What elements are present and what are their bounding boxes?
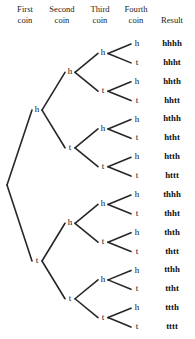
branch-l3-4-l4-9 (108, 204, 131, 213)
branch-l2-2-l3-5 (75, 223, 98, 242)
branch-l2-3-l3-6 (75, 280, 98, 299)
branch-l3-4-l4-8 (108, 195, 131, 204)
node-fourth-coin-12: h (135, 265, 140, 275)
branch-l2-2-l3-4 (75, 204, 98, 223)
branch-l3-1-l4-3 (108, 91, 131, 100)
result-outcome-9: thht (164, 208, 180, 218)
result-outcome-15: tttt (166, 321, 178, 331)
node-fourth-coin-6: h (135, 151, 140, 161)
result-outcome-5: htht (164, 132, 180, 142)
node-fourth-coin-7: t (136, 170, 139, 180)
result-outcome-7: httt (165, 170, 179, 180)
result-outcome-2: hhth (163, 76, 181, 86)
result-outcome-12: tthh (164, 264, 180, 274)
branch-l3-3-l4-6 (108, 157, 131, 166)
result-outcome-11: thtt (165, 246, 179, 256)
node-second-coin-2: h (68, 217, 73, 227)
node-third-coin-7: t (102, 312, 105, 322)
result-outcome-13: ttht (165, 283, 179, 293)
node-fourth-coin-0: h (135, 38, 140, 48)
node-fourth-coin-2: h (135, 76, 140, 86)
node-fourth-coin-4: h (135, 114, 140, 124)
branch-l2-0-l3-0 (75, 53, 98, 72)
node-third-coin-0: h (101, 47, 106, 57)
node-fourth-coin-10: h (135, 227, 140, 237)
branch-l3-7-l4-14 (108, 308, 131, 317)
node-third-coin-4: h (101, 198, 106, 208)
node-fourth-coin-15: t (136, 321, 139, 331)
branch-l3-2-l4-4 (108, 119, 131, 128)
branch-l1-1-l2-3 (42, 261, 65, 299)
branch-l2-1-l3-3 (75, 148, 98, 167)
node-fourth-coin-3: t (136, 95, 139, 105)
branch-l3-1-l4-2 (108, 82, 131, 91)
branch-l3-7-l4-15 (108, 318, 131, 327)
tree-branches (7, 44, 131, 327)
branch-l2-0-l3-1 (75, 72, 98, 91)
result-outcome-4: hthh (163, 113, 181, 123)
node-second-coin-3: t (69, 293, 72, 303)
branch-l3-6-l4-12 (108, 270, 131, 279)
node-fourth-coin-13: t (136, 283, 139, 293)
node-third-coin-1: t (102, 85, 105, 95)
node-third-coin-6: h (101, 274, 106, 284)
node-second-coin-1: t (69, 142, 72, 152)
node-third-coin-3: t (102, 161, 105, 171)
node-third-coin-5: t (102, 236, 105, 246)
tree-node-labels: hthththththththththththththththhhhhhhthh… (35, 38, 182, 331)
result-outcome-1: hhht (163, 57, 181, 67)
branch-l3-3-l4-7 (108, 167, 131, 176)
node-fourth-coin-1: t (136, 57, 139, 67)
node-fourth-coin-8: h (135, 189, 140, 199)
node-second-coin-0: h (68, 66, 73, 76)
result-outcome-0: hhhh (162, 38, 182, 48)
branch-l2-1-l3-2 (75, 129, 98, 148)
branch-l1-1-l2-2 (42, 223, 65, 261)
branch-l1-0-l2-1 (42, 110, 65, 148)
branch-l1-0-l2-0 (42, 72, 65, 110)
tree-diagram-canvas: FirstcoinSecondcoinThirdcoinFourthcoin R… (0, 0, 195, 339)
node-fourth-coin-11: t (136, 246, 139, 256)
node-third-coin-2: h (101, 123, 106, 133)
result-outcome-3: hhtt (164, 95, 180, 105)
branch-l2-3-l3-7 (75, 299, 98, 318)
branch-l3-0-l4-1 (108, 53, 131, 62)
branch-root-t (7, 185, 32, 261)
node-fourth-coin-5: t (136, 132, 139, 142)
result-outcome-8: thhh (163, 189, 181, 199)
result-outcome-10: thth (164, 227, 180, 237)
branch-l3-5-l4-11 (108, 242, 131, 251)
branch-root-h (7, 110, 32, 185)
node-first-coin-h-0: h (35, 104, 40, 114)
branch-l3-0-l4-0 (108, 44, 131, 53)
node-fourth-coin-14: h (135, 302, 140, 312)
result-outcome-14: ttth (165, 302, 179, 312)
node-fourth-coin-9: t (136, 208, 139, 218)
result-outcome-6: htth (164, 151, 180, 161)
branch-l3-2-l4-5 (108, 129, 131, 138)
branch-l3-6-l4-13 (108, 280, 131, 289)
branch-l3-5-l4-10 (108, 233, 131, 242)
node-first-coin-t-1: t (36, 255, 39, 265)
probability-tree: hthththththththththththththththhhhhhhthh… (0, 0, 195, 339)
